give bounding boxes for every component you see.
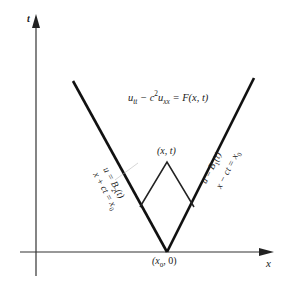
characteristic-diagram: t x utt − c2uxx = F(x, t) (x, t) (x0, 0)…	[0, 0, 284, 283]
x-axis	[20, 248, 274, 256]
apex-point-label: (x, t)	[157, 146, 176, 156]
inner-characteristic-lines	[140, 162, 194, 207]
diagram-canvas	[0, 0, 284, 283]
pde-equation: utt − c2uxx = F(x, t)	[128, 90, 208, 105]
t-axis	[32, 14, 40, 276]
origin-point-label: (x0, 0)	[152, 256, 177, 269]
x-axis-label: x	[266, 258, 271, 269]
left-characteristic-line	[73, 81, 167, 252]
x-axis-arrow-icon	[259, 248, 274, 256]
t-axis-label: t	[27, 14, 30, 24]
t-axis-arrow-icon	[32, 14, 40, 28]
